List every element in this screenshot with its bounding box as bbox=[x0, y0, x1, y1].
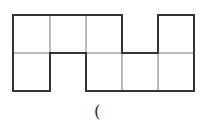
grid-net-diagram bbox=[0, 0, 216, 120]
inner-grid-lines bbox=[13, 15, 194, 91]
caption-paren: ( bbox=[94, 103, 101, 120]
